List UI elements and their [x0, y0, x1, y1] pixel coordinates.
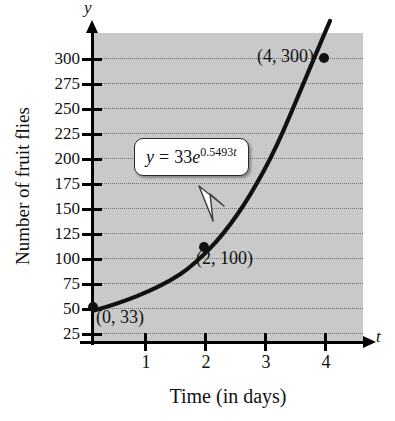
equation-exponent-variable: t — [233, 145, 236, 159]
y-tick-100 — [82, 258, 102, 261]
y-tick-label-250: 250 — [34, 100, 80, 117]
y-tick-label-175: 175 — [34, 175, 80, 192]
y-tick-200 — [82, 158, 102, 161]
x-tick-2 — [204, 333, 207, 351]
x-axis-variable: t — [376, 327, 381, 347]
y-tick-250 — [82, 108, 102, 111]
y-tick-label-225: 225 — [34, 125, 80, 142]
point-label-4-300: (4, 300) — [257, 46, 314, 67]
x-tick-1 — [144, 333, 147, 351]
y-tick-150 — [82, 208, 102, 211]
y-tick-label-75: 75 — [34, 275, 80, 292]
x-tick-label-4: 4 — [311, 352, 341, 373]
point-label-2-100: (2, 100) — [196, 248, 253, 269]
gridline-275 — [93, 83, 363, 84]
y-tick-label-25: 25 — [34, 325, 80, 342]
equation-exponent-value: 0.5493 — [200, 145, 233, 159]
x-tick-3 — [264, 333, 267, 351]
equation-exponent: 0.5493t — [200, 145, 236, 159]
equation-coefficient: 33 — [174, 147, 192, 167]
y-tick-175 — [82, 183, 102, 186]
equation-base: e — [192, 147, 200, 167]
x-tick-label-1: 1 — [131, 352, 161, 373]
y-tick-label-275: 275 — [34, 75, 80, 92]
gridline-300 — [93, 58, 363, 59]
fruit-fly-growth-chart: y t 300 275 250 225 200 175 150 125 100 … — [0, 0, 395, 421]
y-axis-arrow-icon — [86, 20, 98, 33]
gridline-150 — [93, 208, 363, 209]
gridline-175 — [93, 183, 363, 184]
y-axis-title: Number of fruit flies — [12, 71, 34, 301]
y-tick-25 — [82, 333, 102, 336]
equation-callout: y=33e0.5493t — [134, 138, 249, 176]
gridline-125 — [93, 233, 363, 234]
y-tick-225 — [82, 133, 102, 136]
x-axis — [80, 341, 365, 344]
y-tick-125 — [82, 233, 102, 236]
y-tick-label-125: 125 — [34, 225, 80, 242]
gridline-75 — [93, 283, 363, 284]
y-tick-label-200: 200 — [34, 150, 80, 167]
y-tick-75 — [82, 283, 102, 286]
equation-lhs: y — [146, 147, 154, 167]
y-tick-label-300: 300 — [34, 50, 80, 67]
y-tick-label-150: 150 — [34, 200, 80, 217]
y-tick-275 — [82, 83, 102, 86]
gridline-250 — [93, 108, 363, 109]
plot-area — [93, 33, 363, 342]
y-axis-variable: y — [84, 0, 92, 18]
x-tick-4 — [324, 333, 327, 351]
y-axis — [91, 30, 94, 345]
gridline-25 — [93, 333, 363, 334]
x-tick-label-2: 2 — [191, 352, 221, 373]
point-label-0-33: (0, 33) — [96, 307, 144, 328]
x-axis-arrow-icon — [363, 336, 376, 348]
y-tick-300 — [82, 58, 102, 61]
y-tick-label-50: 50 — [34, 300, 80, 317]
x-axis-title: Time (in days) — [93, 385, 363, 408]
x-tick-label-3: 3 — [251, 352, 281, 373]
equation-equals: = — [159, 147, 169, 167]
y-tick-label-100: 100 — [34, 250, 80, 267]
gridline-225 — [93, 133, 363, 134]
